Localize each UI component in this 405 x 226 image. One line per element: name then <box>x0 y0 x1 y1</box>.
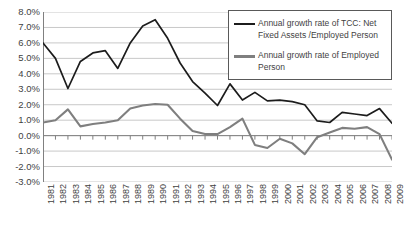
x-tick-label: 1983 <box>72 184 81 204</box>
legend-item-label: Annual growth rate of TCC: Net Fixed Ass… <box>258 18 387 41</box>
x-tick-label: 2006 <box>359 184 368 204</box>
x-tick-label: 2008 <box>384 184 393 204</box>
x-tick-label: 2007 <box>371 184 380 204</box>
x-tick-label: 1998 <box>259 184 268 204</box>
x-tick-label: 1987 <box>122 184 131 204</box>
legend: Annual growth rate of TCC: Net Fixed Ass… <box>228 10 392 80</box>
y-tick-label: 6.0% <box>0 38 40 48</box>
y-tick-label: -3.0% <box>0 177 40 187</box>
x-tick-label: 1982 <box>59 184 68 204</box>
legend-swatch-icon <box>234 55 255 58</box>
y-tick-label: 2.0% <box>0 100 40 110</box>
y-tick-label: 0.0% <box>0 131 40 141</box>
x-tick-label: 2003 <box>321 184 330 204</box>
y-tick-label: 4.0% <box>0 69 40 79</box>
x-tick-label: 1992 <box>184 184 193 204</box>
x-tick-label: 2001 <box>296 184 305 204</box>
y-tick-label: -1.0% <box>0 146 40 156</box>
x-tick-label: 1986 <box>109 184 118 204</box>
x-tick-label: 1993 <box>197 184 206 204</box>
y-tick-label: 7.0% <box>0 23 40 33</box>
x-tick-label: 2000 <box>284 184 293 204</box>
legend-swatch-icon <box>234 23 255 25</box>
y-tick-label: 5.0% <box>0 54 40 64</box>
legend-item-label: Annual growth rate of Employed Person <box>258 50 387 73</box>
x-axis: 1981198219831984198519861987198819891990… <box>43 182 392 226</box>
x-tick-label: 1991 <box>172 184 181 204</box>
x-tick-label: 2004 <box>334 184 343 204</box>
legend-item-employed-person: Annual growth rate of Employed Person <box>234 50 387 73</box>
x-tick-label: 1981 <box>47 184 56 204</box>
legend-item-tcc: Annual growth rate of TCC: Net Fixed Ass… <box>234 18 387 41</box>
x-tick-label: 1985 <box>97 184 106 204</box>
y-tick-label: 1.0% <box>0 115 40 125</box>
x-axis-ticks <box>43 136 392 140</box>
x-tick-label: 2005 <box>346 184 355 204</box>
x-tick-label: 1994 <box>209 184 218 204</box>
y-tick-label: 3.0% <box>0 85 40 95</box>
y-tick-label: 8.0% <box>0 7 40 17</box>
x-tick-label: 1990 <box>159 184 168 204</box>
x-tick-label: 1996 <box>234 184 243 204</box>
x-tick-label: 1997 <box>246 184 255 204</box>
y-axis: 8.0%7.0%6.0%5.0%4.0%3.0%2.0%1.0%0.0%-1.0… <box>0 0 40 226</box>
x-tick-label: 2009 <box>396 184 405 204</box>
x-tick-label: 1999 <box>271 184 280 204</box>
x-tick-label: 1989 <box>147 184 156 204</box>
x-tick-label: 1988 <box>134 184 143 204</box>
y-tick-label: -2.0% <box>0 162 40 172</box>
x-tick-label: 1984 <box>84 184 93 204</box>
x-tick-label: 2002 <box>309 184 318 204</box>
x-tick-label: 1995 <box>222 184 231 204</box>
